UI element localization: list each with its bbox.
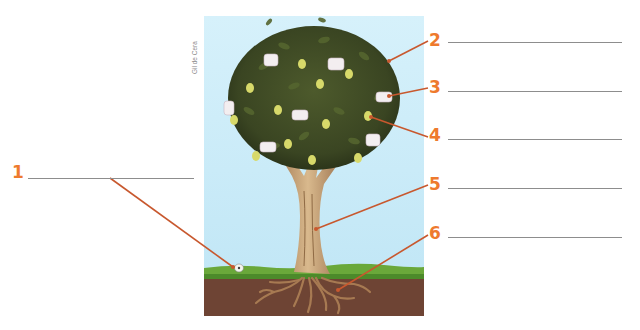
leader-5	[316, 185, 428, 229]
leader-1	[110, 178, 233, 267]
answer-line-4[interactable]	[448, 139, 622, 140]
leader-lines	[0, 0, 640, 330]
label-number-2: 2	[429, 32, 441, 49]
label-number-6: 6	[429, 225, 441, 242]
leader-6	[338, 235, 428, 290]
label-number-1: 1	[12, 164, 24, 181]
leader-3	[389, 88, 428, 96]
label-number-4: 4	[429, 127, 441, 144]
answer-line-3[interactable]	[448, 91, 622, 92]
answer-line-2[interactable]	[448, 42, 622, 43]
leader-4	[371, 117, 428, 137]
leader-2	[389, 41, 428, 61]
label-number-5: 5	[429, 176, 441, 193]
answer-line-6[interactable]	[448, 237, 622, 238]
label-number-3: 3	[429, 79, 441, 96]
answer-line-1[interactable]	[28, 178, 194, 179]
answer-line-5[interactable]	[448, 188, 622, 189]
